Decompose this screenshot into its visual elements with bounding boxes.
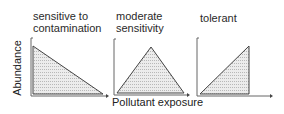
area-decreasing — [33, 46, 103, 94]
panel-sensitive — [31, 38, 109, 98]
area-peak — [117, 47, 184, 93]
x-axis-arrow-icon — [187, 93, 190, 97]
panel-tolerant — [197, 38, 273, 98]
panel-moderate — [114, 39, 190, 97]
x-axis-arrow-icon — [270, 94, 273, 98]
x-axis-arrow-icon — [106, 94, 109, 98]
area-increasing — [200, 46, 249, 94]
diagram-canvas — [0, 0, 284, 114]
